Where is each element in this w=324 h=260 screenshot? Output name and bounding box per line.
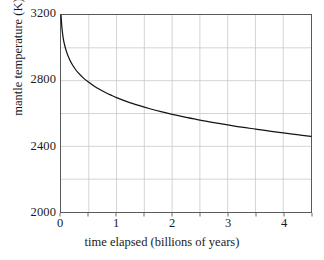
series-line bbox=[61, 15, 311, 136]
y-tick-label: 2800 bbox=[0, 72, 56, 87]
y-tick-label: 3200 bbox=[0, 6, 56, 21]
y-axis-title-wrapper: mantle temperature (K) bbox=[10, 0, 26, 137]
x-axis-title: time elapsed (billions of years) bbox=[0, 235, 324, 250]
x-tick-label: 1 bbox=[104, 216, 128, 231]
y-tick-label: 2400 bbox=[0, 139, 56, 154]
plot-area bbox=[60, 14, 312, 213]
data-curve bbox=[61, 15, 311, 212]
x-tick-label: 2 bbox=[160, 216, 184, 231]
chart-figure: 3200280024002000 01234 mantle temperatur… bbox=[0, 0, 324, 260]
x-tick-label: 0 bbox=[48, 216, 72, 231]
x-tick-label: 4 bbox=[272, 216, 296, 231]
y-axis-title: mantle temperature (K) bbox=[10, 0, 26, 137]
x-tick-label: 3 bbox=[216, 216, 240, 231]
